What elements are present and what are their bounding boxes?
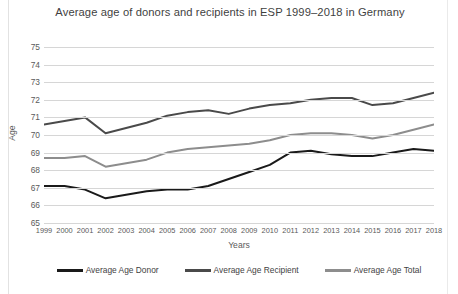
legend-item[interactable]: Average Age Total	[325, 265, 422, 275]
x-axis-tick-label: 2017	[402, 226, 424, 235]
line-chart: Average age of donors and recipients in …	[0, 0, 458, 294]
gridline	[44, 153, 434, 154]
legend-label: Average Age Recipient	[214, 265, 299, 275]
y-axis-tick-label: 75	[16, 42, 40, 52]
legend-item[interactable]: Average Age Donor	[57, 265, 159, 275]
x-axis-tick-label: 2013	[320, 226, 342, 235]
y-axis-tick-label: 71	[16, 112, 40, 122]
gridline	[44, 188, 434, 189]
x-axis-tick-label: 2001	[74, 226, 96, 235]
x-axis-tick-label: 2014	[341, 226, 363, 235]
x-axis-tick-label: 2012	[300, 226, 322, 235]
gridline	[44, 117, 434, 118]
plot-area	[44, 47, 434, 223]
x-axis-tick-label: 2006	[177, 226, 199, 235]
gridline	[44, 170, 434, 171]
y-axis-tick-label: 72	[16, 95, 40, 105]
legend-label: Average Age Total	[354, 265, 422, 275]
x-axis-tick-label: 1999	[33, 226, 55, 235]
x-axis-tick-label: 2003	[115, 226, 137, 235]
x-axis-tick-label: 2002	[95, 226, 117, 235]
legend-label: Average Age Donor	[86, 265, 159, 275]
gridline	[44, 205, 434, 206]
x-axis-tick-labels: 1999200020012002200320042005200620072008…	[44, 226, 434, 238]
y-axis-tick-label: 70	[16, 130, 40, 140]
y-axis-tick-label: 67	[16, 183, 40, 193]
x-axis-tick-label: 2000	[54, 226, 76, 235]
x-axis-tick-label: 2010	[259, 226, 281, 235]
y-axis-tick-labels: 7574737271706968676665	[14, 47, 40, 223]
legend-swatch	[57, 269, 83, 272]
x-axis-tick-label: 2007	[197, 226, 219, 235]
x-axis-tick-label: 2005	[156, 226, 178, 235]
gridline	[44, 82, 434, 83]
gridline	[44, 100, 434, 101]
y-axis-tick-label: 73	[16, 77, 40, 87]
legend-item[interactable]: Average Age Recipient	[185, 265, 299, 275]
chart-title: Average age of donors and recipients in …	[40, 5, 420, 20]
gridline	[44, 135, 434, 136]
x-axis-tick-label: 2011	[279, 226, 301, 235]
x-axis-tick-label: 2016	[382, 226, 404, 235]
legend-swatch	[325, 269, 351, 272]
x-axis-tick-label: 2018	[423, 226, 445, 235]
series-line	[44, 149, 434, 198]
x-axis-tick-label: 2015	[361, 226, 383, 235]
legend-swatch	[185, 269, 211, 272]
y-axis-tick-label: 69	[16, 148, 40, 158]
y-axis-tick-label: 74	[16, 60, 40, 70]
x-axis-tick-label: 2004	[136, 226, 158, 235]
y-axis-tick-label: 66	[16, 200, 40, 210]
gridline	[44, 47, 434, 48]
gridline	[44, 65, 434, 66]
y-axis-tick-label: 68	[16, 165, 40, 175]
gridline	[44, 223, 434, 224]
x-axis-tick-label: 2009	[238, 226, 260, 235]
chart-legend: Average Age DonorAverage Age RecipientAv…	[44, 263, 434, 277]
x-axis-title: Years	[44, 240, 434, 250]
x-axis-tick-label: 2008	[218, 226, 240, 235]
